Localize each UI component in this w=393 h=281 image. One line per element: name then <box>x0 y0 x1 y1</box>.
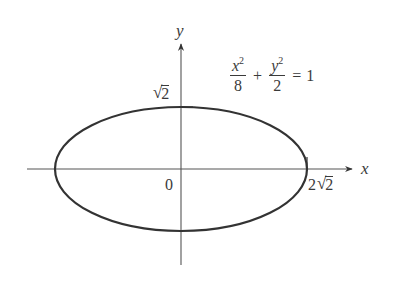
radicand: 2 <box>325 176 333 193</box>
fraction-x-term: x2 8 <box>230 58 246 94</box>
equals-operator: = <box>292 67 301 85</box>
denominator: 2 <box>273 76 281 94</box>
plus-operator: + <box>253 67 262 85</box>
exponent: 2 <box>278 55 283 66</box>
ellipse-diagram: y x 0 √2 2√2 x2 8 + y2 2 = 1 <box>0 0 393 281</box>
y-intercept-label: √2 <box>153 84 169 102</box>
y-axis-label: y <box>176 22 184 39</box>
ellipse-equation: x2 8 + y2 2 = 1 <box>228 58 314 94</box>
exponent: 2 <box>239 55 244 66</box>
origin-label: 0 <box>165 177 173 193</box>
radicand: 2 <box>161 85 169 102</box>
rhs-value: 1 <box>306 67 314 85</box>
x-intercept-label: 2√2 <box>308 175 333 193</box>
denominator: 8 <box>234 76 242 94</box>
coefficient: 2 <box>308 177 316 193</box>
x-axis-label: x <box>361 160 369 177</box>
diagram-canvas <box>0 0 393 281</box>
fraction-y-term: y2 2 <box>269 58 285 94</box>
